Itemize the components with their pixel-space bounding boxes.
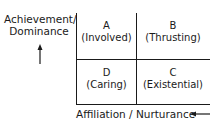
grid-middle-horizontal: [76, 59, 210, 60]
quadrant-c-letter: C: [137, 67, 209, 79]
left-arrow-icon: [190, 110, 210, 118]
quadrant-a-letter: A: [77, 20, 136, 32]
quadrant-d-name: (Caring): [77, 79, 136, 91]
y-axis-label-line2: Dominance: [4, 25, 74, 37]
grid-bottom-border: [76, 104, 210, 105]
y-axis-label: Achievement/ Dominance: [4, 13, 74, 37]
quadrant-d: D (Caring): [77, 67, 136, 91]
quadrant-b-letter: B: [137, 20, 209, 32]
quadrant-b-name: (Thrusting): [137, 32, 209, 44]
y-axis-label-line1: Achievement/: [4, 13, 74, 25]
quadrant-d-letter: D: [77, 67, 136, 79]
quadrant-b: B (Thrusting): [137, 20, 209, 44]
up-arrow-icon: [36, 44, 44, 64]
quadrant-a-name: (Involved): [77, 32, 136, 44]
x-axis-label: Affiliation / Nurturance: [76, 108, 195, 121]
quadrant-c-name: (Existential): [137, 79, 209, 91]
quadrant-a: A (Involved): [77, 20, 136, 44]
quadrant-c: C (Existential): [137, 67, 209, 91]
